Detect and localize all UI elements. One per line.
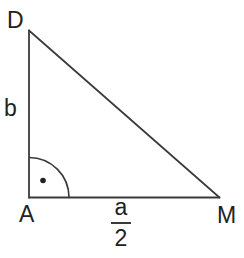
fraction-numerator: a xyxy=(115,196,128,219)
right-angle-dot xyxy=(40,178,46,184)
vertex-a-label: A xyxy=(19,203,34,226)
side-b-label: b xyxy=(4,97,17,120)
geometry-figure: D b A M a 2 xyxy=(0,0,244,258)
vertex-d-label: D xyxy=(7,9,24,32)
fraction-denominator: 2 xyxy=(115,227,128,250)
side-a-half-fraction: a 2 xyxy=(109,196,133,250)
right-angle-arc xyxy=(29,158,69,198)
vertex-m-label: M xyxy=(217,204,236,227)
fraction-bar xyxy=(111,222,131,224)
side-dm-hypotenuse-line xyxy=(29,31,220,198)
